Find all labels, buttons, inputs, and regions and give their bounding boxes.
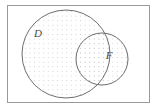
set-f-label: F — [105, 49, 113, 61]
venn-diagram-canvas: D F — [0, 0, 159, 111]
set-d-label: D — [33, 27, 42, 39]
venn-diagram-figure: D F — [0, 0, 159, 111]
